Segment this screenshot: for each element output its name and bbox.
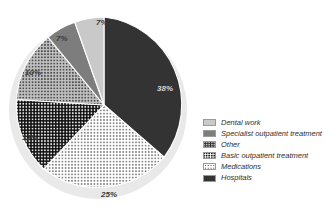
data-label-hospitals: 38% xyxy=(157,85,173,93)
legend-label-dental-work: Dental work xyxy=(221,119,261,127)
basic-outpatient-treatment-swatch xyxy=(203,152,216,159)
specialist-outpatient-treatment-swatch xyxy=(203,130,216,137)
legend-label-basic-outpatient-treatment: Basic outpatient treatment xyxy=(221,152,308,160)
legend-label-specialist-outpatient-treatment: Specialist outpatient treatment xyxy=(221,130,322,138)
legend-item-dental-work[interactable]: Dental work xyxy=(203,117,336,128)
legend-label-hospitals: Hospitals xyxy=(221,174,252,182)
chart-legend: Dental work Specialist outpatient treatm… xyxy=(203,117,336,184)
legend-item-medications[interactable]: Medications xyxy=(203,161,336,172)
other-swatch xyxy=(203,141,216,148)
medications-swatch xyxy=(203,163,216,170)
legend-item-hospitals[interactable]: Hospitals xyxy=(203,172,336,183)
legend-label-other: Other xyxy=(221,141,240,149)
hospitals-swatch xyxy=(203,175,216,182)
data-label-dental-work: 7% xyxy=(96,19,108,27)
legend-item-basic-outpatient-treatment[interactable]: Basic outpatient treatment xyxy=(203,150,336,161)
legend-label-medications: Medications xyxy=(221,163,261,171)
data-label-specialist-outpatient-treatment: 7% xyxy=(56,35,68,43)
data-label-basic-outpatient-treatment: 13% xyxy=(22,134,38,142)
pie-chart-figure: 38% 25% 13% 10% 7% 7% Dental work Specia… xyxy=(0,0,336,217)
legend-item-other[interactable]: Other xyxy=(203,139,336,150)
data-label-medications: 25% xyxy=(101,191,117,199)
pie-chart-svg xyxy=(0,0,210,217)
dental-work-swatch xyxy=(203,119,216,126)
chart-plot-area: 38% 25% 13% 10% 7% 7% xyxy=(0,0,210,217)
data-label-other: 10% xyxy=(25,69,41,77)
legend-item-specialist-outpatient-treatment[interactable]: Specialist outpatient treatment xyxy=(203,128,336,139)
